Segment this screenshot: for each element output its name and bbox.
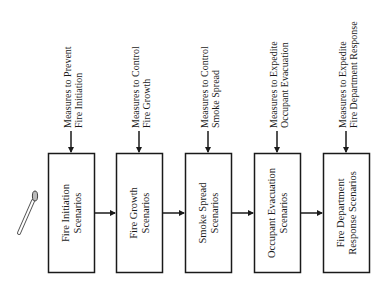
box-line-1: Fire Initiation bbox=[60, 184, 72, 242]
measure-line-1: Measures to Control bbox=[199, 46, 210, 128]
measure-label-control-smoke: Measures to Control Smoke Spread bbox=[199, 46, 221, 128]
box-line-1: Fire Department bbox=[335, 171, 347, 255]
measure-line-1: Measures to Expedite bbox=[337, 21, 348, 128]
measure-line-2: Fire Department Response bbox=[348, 21, 359, 128]
measure-line-2: Fire Initiation bbox=[73, 46, 84, 128]
measure-label-expedite-fire-department: Measures to Expedite Fire Department Res… bbox=[337, 21, 359, 128]
measure-line-2: Smoke Spread bbox=[210, 46, 221, 128]
measure-line-1: Measures to Control bbox=[130, 46, 141, 128]
measure-line-2: Fire Growth bbox=[141, 46, 152, 128]
box-label-occupant-evacuation: Occupant Evacuation Scenarios bbox=[266, 168, 290, 258]
measure-label-control-growth: Measures to Control Fire Growth bbox=[130, 46, 152, 128]
flow-diagram bbox=[0, 0, 383, 289]
measure-line-1: Measures to Expedite bbox=[268, 41, 279, 128]
box-line-1: Occupant Evacuation bbox=[266, 168, 278, 258]
box-label-fire-initiation: Fire Initiation Scenarios bbox=[60, 184, 84, 242]
measure-label-expedite-evacuation: Measures to Expedite Occupant Evacuation bbox=[268, 41, 290, 128]
box-line-2: Scenarios bbox=[278, 168, 290, 258]
measure-arrows bbox=[71, 131, 346, 152]
box-line-2: Scenarios bbox=[72, 184, 84, 242]
box-label-smoke-spread: Smoke Spread Scenarios bbox=[197, 183, 221, 244]
box-line-2: Scenarios bbox=[140, 187, 152, 239]
measure-label-prevent-initiation: Measures to Prevent Fire Initiation bbox=[62, 46, 84, 128]
measure-line-2: Occupant Evacuation bbox=[279, 41, 290, 128]
box-line-2: Response Scenarios bbox=[347, 171, 359, 255]
match-icon bbox=[19, 191, 38, 233]
box-label-fire-growth: Fire Growth Scenarios bbox=[128, 187, 152, 239]
box-line-1: Fire Growth bbox=[128, 187, 140, 239]
box-label-fire-department-response: Fire Department Response Scenarios bbox=[335, 171, 359, 255]
box-line-1: Smoke Spread bbox=[197, 183, 209, 244]
box-line-2: Scenarios bbox=[209, 183, 221, 244]
measure-line-1: Measures to Prevent bbox=[62, 46, 73, 128]
